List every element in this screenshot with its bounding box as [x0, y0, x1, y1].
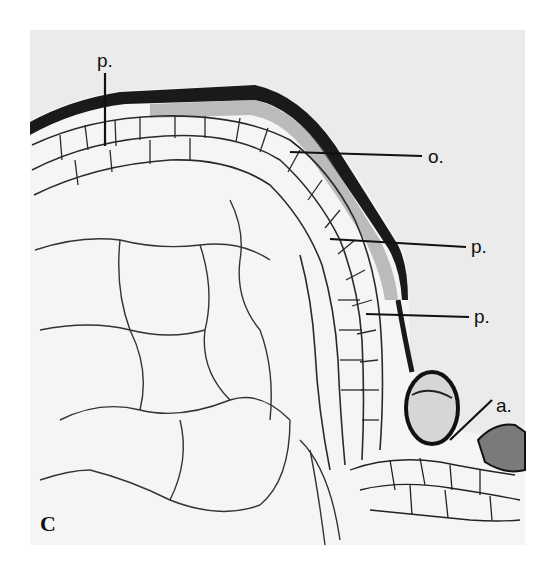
panel-letter: C: [40, 511, 56, 536]
label-o: o.: [428, 146, 444, 167]
label-p-mid: p.: [471, 236, 487, 257]
label-a: a.: [496, 395, 512, 416]
label-p-lower: p.: [474, 306, 490, 327]
micrograph-figure: p. o. p. p. a. C: [0, 0, 556, 575]
label-p-top: p.: [97, 50, 113, 71]
